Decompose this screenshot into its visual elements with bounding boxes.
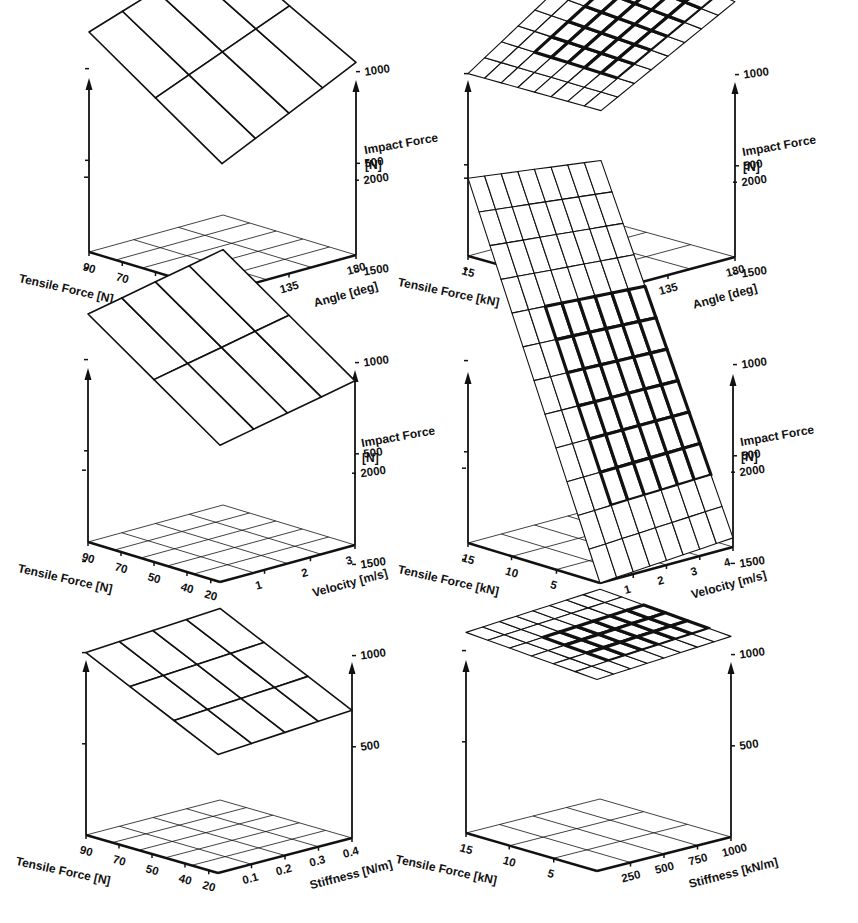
y-tick-label: 3: [689, 565, 698, 578]
figure-3d-surface-grid: 200015001000500Impact Force[N]9070504020…: [0, 0, 858, 923]
z-tick-label: 500: [739, 737, 760, 752]
x-axis-label: Tensile Force [N]: [18, 271, 115, 306]
x-axis-label: Tensile Force [kN]: [397, 275, 501, 310]
y-tick-label: 4: [722, 556, 732, 569]
x-tick-label: 20: [203, 588, 219, 603]
z-tick-label: 1500: [741, 264, 768, 279]
x-tick-label: 15: [460, 264, 476, 279]
z-axis-arrow-icon: [465, 80, 472, 92]
z-tick-label: 1000: [364, 62, 391, 77]
x-tick-label: 70: [115, 270, 131, 285]
z-tick-label: 1000: [739, 645, 766, 660]
surface-plots-canvas: 200015001000500Impact Force[N]9070504020…: [0, 0, 858, 923]
z-tick-label: 1000: [741, 355, 768, 370]
x-tick-label: 5: [546, 867, 556, 880]
z-tick-label: 2000: [741, 173, 768, 188]
z-axis-arrow-icon: [730, 374, 737, 386]
surface-plot-middle-left: 200015001000500Impact Force[N]9070504020…: [17, 130, 440, 602]
y-tick-label: 500: [654, 860, 676, 876]
y-tick-label: 2: [656, 574, 665, 587]
z-tick-label: 1500: [363, 262, 390, 277]
x-tick-label: 50: [144, 862, 160, 877]
x-tick-label: 70: [113, 560, 129, 575]
z-tick-label: 2000: [363, 171, 390, 186]
surface-mesh: [468, 160, 733, 583]
y-axis-label: Velocity [m/s]: [690, 568, 768, 602]
y-tick-label: 0.4: [341, 844, 360, 860]
z-axis-arrow-icon: [465, 372, 472, 384]
x-axis-label: Tensile Force [kN]: [394, 852, 498, 887]
z-axis-label: Impact Force: [739, 422, 815, 449]
z-axis-arrow-icon: [349, 662, 356, 674]
surface-mesh: [89, 0, 356, 164]
floor-grid: [88, 505, 355, 582]
z-axis-label: Impact Force: [360, 423, 436, 450]
y-tick-label: 0.3: [308, 853, 327, 869]
z-axis-arrow-icon: [463, 660, 470, 672]
z-tick-label: 1500: [739, 554, 766, 569]
x-tick-label: 50: [146, 570, 162, 585]
z-axis-arrow-icon: [353, 80, 360, 92]
z-tick-label: 1000: [363, 353, 390, 368]
y-tick-label: 1000: [721, 841, 749, 859]
z-axis-unit: [N]: [741, 450, 758, 464]
surface-plot-middle-right: 200015001000500Impact Force[N]15105Tensi…: [397, 132, 818, 601]
surface-mesh: [86, 608, 352, 754]
z-axis-unit: [N]: [362, 451, 379, 465]
x-tick-label: 15: [458, 841, 474, 856]
y-tick-label: 2: [300, 566, 309, 579]
x-tick-label: 5: [549, 578, 559, 592]
z-axis-arrow-icon: [86, 78, 93, 90]
z-axis-arrow-icon: [83, 660, 90, 672]
surface-mesh: [468, 0, 735, 111]
z-axis-unit: [N]: [365, 158, 382, 172]
z-axis-label: Impact Force: [741, 132, 817, 159]
z-axis-unit: [N]: [743, 160, 760, 174]
y-tick-label: 1: [623, 583, 633, 596]
x-tick-label: 40: [177, 872, 193, 887]
x-axis-label: Tensile Force [N]: [15, 854, 112, 888]
x-tick-label: 10: [502, 854, 518, 869]
y-tick-label: 0.2: [274, 862, 293, 878]
y-axis-label: Velocity [m/s]: [311, 566, 389, 600]
z-tick-label: 500: [360, 738, 381, 753]
x-tick-label: 90: [80, 550, 96, 565]
x-axis-label: Tensile Force [N]: [17, 561, 114, 596]
surface-plot-bottom-left: 200015001000500Impact Force[N]9070504020…: [15, 423, 437, 893]
x-tick-label: 70: [111, 853, 127, 868]
z-axis-arrow-icon: [732, 82, 739, 94]
surface-mesh: [466, 589, 731, 679]
y-tick-label: 1: [254, 578, 264, 591]
y-tick-label: 0.1: [241, 870, 260, 886]
y-tick-label: 135: [278, 279, 300, 296]
x-tick-label: 20: [201, 879, 217, 894]
z-tick-label: 2000: [739, 463, 766, 478]
z-tick-label: 2000: [360, 464, 387, 479]
z-tick-label: 1000: [360, 646, 387, 661]
x-tick-label: 10: [504, 565, 520, 580]
y-tick-label: 135: [657, 280, 679, 297]
x-tick-label: 90: [81, 260, 97, 275]
x-tick-label: 40: [179, 580, 195, 595]
y-axis-label: Angle [deg]: [691, 281, 758, 312]
z-tick-label: 1000: [743, 65, 770, 80]
z-axis-label: Impact Force: [363, 130, 439, 157]
z-axis-arrow-icon: [728, 662, 735, 674]
x-tick-label: 90: [78, 843, 94, 858]
y-tick-label: 250: [620, 868, 642, 884]
x-axis-label: Tensile Force [kN]: [397, 562, 501, 598]
y-axis-label: Angle [deg]: [312, 279, 379, 310]
z-axis-arrow-icon: [85, 368, 92, 380]
y-tick-label: 750: [687, 851, 709, 867]
